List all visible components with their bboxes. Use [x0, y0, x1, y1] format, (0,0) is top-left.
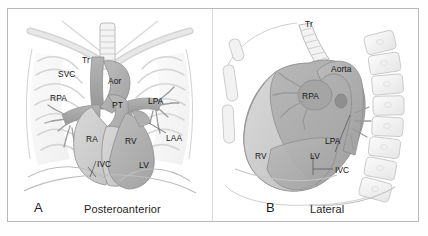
label-a-rv: RV: [125, 136, 137, 146]
panel-b-artwork: [213, 9, 418, 221]
panel-a-letter: A: [34, 200, 43, 215]
label-a-ivc: IVC: [97, 159, 111, 169]
label-a-pt: PT: [112, 100, 123, 110]
figure-root: Tr SVC Aor RPA PT LPA LAA RA RV IVC LV A…: [0, 0, 428, 236]
label-a-svc: SVC: [58, 69, 76, 79]
label-a-ra: RA: [86, 134, 98, 144]
label-a-lpa: LPA: [148, 96, 164, 106]
label-b-rpa: RPA: [302, 91, 319, 101]
label-a-aor: Aor: [108, 76, 121, 86]
panel-b-title: Lateral: [310, 203, 344, 215]
panel-lateral: Tr Aorta RPA LPA RV LV IVC B Lateral: [213, 9, 418, 221]
panel-a-artwork: [8, 9, 212, 221]
label-b-lv: LV: [310, 151, 320, 161]
label-a-laa: LAA: [166, 133, 182, 143]
panel-a-title: Posteroanterior: [84, 203, 161, 215]
sternum-group: [222, 38, 245, 144]
label-b-aorta: Aorta: [331, 64, 352, 74]
panel-b-letter: B: [266, 200, 275, 215]
panel-posteroanterior: Tr SVC Aor RPA PT LPA LAA RA RV IVC LV A…: [8, 9, 212, 221]
trachea-shape-lateral: [299, 23, 329, 65]
label-a-rpa: RPA: [50, 93, 67, 103]
svc-shape: [91, 57, 105, 109]
label-b-lpa: LPA: [325, 136, 341, 146]
label-a-lv: LV: [139, 160, 149, 170]
label-b-rv: RV: [255, 151, 267, 161]
label-b-ivc: IVC: [335, 165, 349, 175]
label-b-tr: Tr: [305, 19, 313, 29]
label-a-tr: Tr: [82, 55, 90, 65]
